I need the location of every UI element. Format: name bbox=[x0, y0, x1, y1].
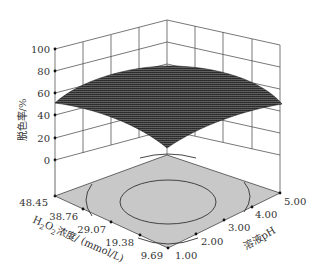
z-axis-label: 脱色率/% bbox=[16, 99, 28, 142]
x-tick: 38.76 bbox=[49, 211, 78, 222]
z-tick: 60 bbox=[37, 88, 50, 99]
z-tick: 0 bbox=[44, 155, 50, 166]
response-surface bbox=[55, 66, 282, 148]
y-tick: 5.00 bbox=[284, 196, 306, 207]
x-tick: 48.45 bbox=[19, 197, 48, 208]
y-tick: 4.00 bbox=[255, 209, 277, 220]
x-tick: 9.69 bbox=[141, 250, 163, 261]
z-tick: 20 bbox=[37, 133, 50, 144]
y-tick: 3.00 bbox=[228, 222, 250, 233]
z-tick: 80 bbox=[37, 66, 50, 77]
z-axis: 0 20 40 60 80 100 脱色率/% bbox=[16, 44, 56, 197]
y-tick: 1.00 bbox=[175, 250, 197, 261]
z-tick: 40 bbox=[37, 110, 50, 121]
z-tick: 100 bbox=[31, 44, 50, 55]
y-tick: 2.00 bbox=[201, 236, 223, 247]
response-surface-chart: 0 20 40 60 80 100 脱色率/% 48.45 38.76 29.0… bbox=[0, 0, 313, 276]
